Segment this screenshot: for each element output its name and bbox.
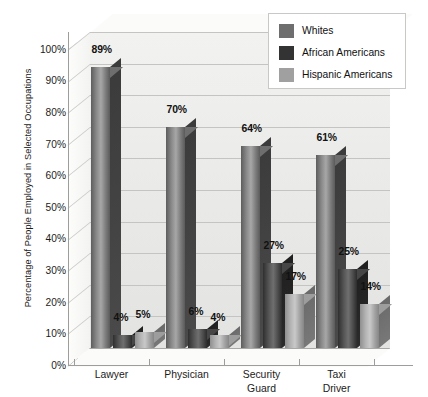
bar-value-label: 14% xyxy=(361,281,382,292)
bar[interactable] xyxy=(135,332,154,348)
category-label: Lawyer xyxy=(69,368,155,382)
category-label-line: Lawyer xyxy=(69,368,155,382)
legend-swatch xyxy=(279,24,294,38)
bar-value-label: 5% xyxy=(136,309,151,320)
bar[interactable] xyxy=(263,263,282,348)
x-tick-mark xyxy=(374,359,375,366)
bar-front-face xyxy=(113,335,132,348)
category-label: Physician xyxy=(144,368,230,382)
x-tick-mark xyxy=(224,359,225,366)
x-tick-mark xyxy=(74,359,75,366)
y-axis-tick-labels: 100%90%80%70%60%50%40%30%20%10%0% xyxy=(24,0,66,397)
bar[interactable] xyxy=(316,155,335,348)
legend: WhitesAfrican AmericansHispanic American… xyxy=(268,13,406,89)
gridline xyxy=(90,127,390,128)
legend-item[interactable]: African Americans xyxy=(279,42,405,63)
category-label-line: Taxi xyxy=(294,368,380,382)
legend-label: African Americans xyxy=(302,47,385,58)
bar-front-face xyxy=(241,146,260,348)
gridline xyxy=(90,95,390,96)
bar[interactable] xyxy=(113,335,132,348)
category-label: TaxiDriver xyxy=(294,368,380,395)
y-tick-label: 100% xyxy=(26,45,66,55)
legend-label: Hispanic Americans xyxy=(302,69,392,80)
y-tick-label: 40% xyxy=(26,234,66,244)
bar-side-face xyxy=(379,295,390,348)
bar-front-face xyxy=(188,329,207,348)
bar[interactable] xyxy=(338,269,357,348)
bar-chart: Percentage of People Employed in Selecte… xyxy=(0,0,428,397)
y-tick-label: 0% xyxy=(26,361,66,371)
bar[interactable] xyxy=(166,127,185,348)
bar[interactable] xyxy=(210,335,229,348)
bar-front-face xyxy=(135,332,154,348)
x-tick-mark xyxy=(149,359,150,366)
y-tick-label: 20% xyxy=(26,298,66,308)
y-axis-line xyxy=(68,32,69,365)
bar-value-label: 64% xyxy=(242,123,263,134)
bar[interactable] xyxy=(285,294,304,348)
category-label-line: Driver xyxy=(294,382,380,396)
bar-side-face xyxy=(110,58,121,348)
bar[interactable] xyxy=(188,329,207,348)
bar-front-face xyxy=(210,335,229,348)
legend-swatch xyxy=(279,68,294,82)
bar-front-face xyxy=(316,155,335,348)
bar-value-label: 70% xyxy=(167,104,188,115)
category-label-line: Physician xyxy=(144,368,230,382)
bar-value-label: 61% xyxy=(317,132,338,143)
bar[interactable] xyxy=(91,67,110,348)
category-label-line: Guard xyxy=(219,382,305,396)
bar-front-face xyxy=(285,294,304,348)
bar-value-label: 27% xyxy=(264,240,285,251)
bar-value-label: 4% xyxy=(211,312,226,323)
bar-front-face xyxy=(338,269,357,348)
y-tick-label: 90% xyxy=(26,76,66,86)
bar[interactable] xyxy=(241,146,260,348)
legend-item[interactable]: Hispanic Americans xyxy=(279,64,405,85)
bar[interactable] xyxy=(360,304,379,348)
legend-item[interactable]: Whites xyxy=(279,20,405,41)
bar-front-face xyxy=(91,67,110,348)
category-label-line: Security xyxy=(219,368,305,382)
y-tick-label: 30% xyxy=(26,266,66,276)
bar-value-label: 89% xyxy=(92,44,113,55)
legend-swatch xyxy=(279,46,294,60)
x-tick-mark xyxy=(299,359,300,366)
legend-label: Whites xyxy=(302,25,333,36)
bar-value-label: 17% xyxy=(286,271,307,282)
x-axis-category-labels: LawyerPhysicianSecurityGuardTaxiDriver xyxy=(68,366,413,397)
bar-front-face xyxy=(166,127,185,348)
bar-value-label: 6% xyxy=(189,306,204,317)
bar-front-face xyxy=(263,263,282,348)
y-tick-label: 60% xyxy=(26,171,66,181)
bar-value-label: 4% xyxy=(114,312,129,323)
y-tick-label: 10% xyxy=(26,329,66,339)
y-tick-label: 80% xyxy=(26,108,66,118)
category-label: SecurityGuard xyxy=(219,368,305,395)
bar-front-face xyxy=(360,304,379,348)
bar-value-label: 25% xyxy=(339,246,360,257)
y-tick-label: 70% xyxy=(26,140,66,150)
y-tick-label: 50% xyxy=(26,203,66,213)
